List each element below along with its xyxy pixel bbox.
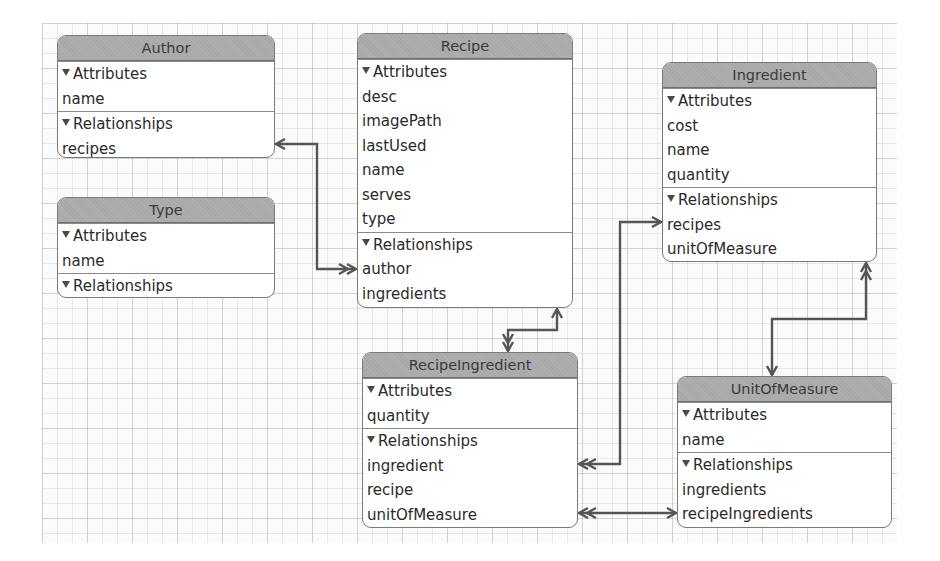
attributes-toggle[interactable]: Attributes bbox=[58, 62, 274, 87]
attributes-section: Attributes name bbox=[58, 61, 274, 111]
relationships-toggle[interactable]: Relationships bbox=[363, 429, 577, 454]
attribute-name[interactable]: name bbox=[358, 158, 572, 183]
relationships-toggle[interactable]: Relationships bbox=[358, 233, 572, 258]
disclosure-triangle-icon[interactable] bbox=[62, 281, 70, 288]
disclosure-triangle-icon[interactable] bbox=[62, 119, 70, 126]
entity-recipe[interactable]: Recipe Attributes desc imagePath lastUse… bbox=[357, 33, 573, 308]
attribute-desc[interactable]: desc bbox=[358, 85, 572, 110]
relationships-section: Relationships author ingredients bbox=[358, 232, 572, 307]
section-label: Relationships bbox=[693, 453, 793, 478]
disclosure-triangle-icon[interactable] bbox=[367, 436, 375, 443]
relationships-section: Relationships recipes unitOfMeasure bbox=[663, 187, 876, 262]
relationship-recipe[interactable]: recipe bbox=[363, 478, 577, 503]
attribute-type[interactable]: type bbox=[358, 207, 572, 232]
disclosure-triangle-icon[interactable] bbox=[667, 195, 675, 202]
disclosure-triangle-icon[interactable] bbox=[682, 460, 690, 467]
relationships-section: Relationships ingredients recipeIngredie… bbox=[678, 452, 891, 527]
attributes-section: Attributes name bbox=[58, 223, 274, 273]
relationship-unitofmeasure[interactable]: unitOfMeasure bbox=[363, 503, 577, 528]
attributes-toggle[interactable]: Attributes bbox=[678, 403, 891, 428]
relationship-author[interactable]: author bbox=[358, 257, 572, 282]
relationship-ingredient[interactable]: ingredient bbox=[363, 454, 577, 479]
disclosure-triangle-icon[interactable] bbox=[667, 96, 675, 103]
relationships-toggle[interactable]: Relationships bbox=[58, 274, 274, 298]
section-label: Attributes bbox=[678, 89, 752, 114]
relationships-section: Relationships ingredient recipe unitOfMe… bbox=[363, 428, 577, 527]
attribute-name[interactable]: name bbox=[58, 249, 274, 274]
section-label: Relationships bbox=[378, 429, 478, 454]
attribute-lastused[interactable]: lastUsed bbox=[358, 134, 572, 159]
relationships-section: Relationships recipes bbox=[58, 111, 274, 158]
attribute-name[interactable]: name bbox=[58, 87, 274, 112]
relationships-toggle[interactable]: Relationships bbox=[663, 188, 876, 213]
entity-recipeingredient[interactable]: RecipeIngredient Attributes quantity Rel… bbox=[362, 352, 578, 528]
entity-unitofmeasure[interactable]: UnitOfMeasure Attributes name Relationsh… bbox=[677, 376, 892, 528]
entity-type[interactable]: Type Attributes name Relationships bbox=[57, 197, 275, 298]
section-label: Attributes bbox=[378, 379, 452, 404]
relationship-recipes[interactable]: recipes bbox=[58, 137, 274, 159]
attributes-toggle[interactable]: Attributes bbox=[663, 89, 876, 114]
attributes-section: Attributes desc imagePath lastUsed name … bbox=[358, 59, 572, 232]
entity-title: Recipe bbox=[358, 34, 572, 59]
relationship-unitofmeasure[interactable]: unitOfMeasure bbox=[663, 237, 876, 262]
entity-title: UnitOfMeasure bbox=[678, 377, 891, 402]
disclosure-triangle-icon[interactable] bbox=[62, 231, 70, 238]
relationship-ingredients[interactable]: ingredients bbox=[678, 478, 891, 503]
entity-ingredient[interactable]: Ingredient Attributes cost name quantity… bbox=[662, 62, 877, 262]
disclosure-triangle-icon[interactable] bbox=[367, 386, 375, 393]
attribute-quantity[interactable]: quantity bbox=[663, 163, 876, 188]
section-label: Attributes bbox=[373, 60, 447, 85]
attributes-section: Attributes cost name quantity bbox=[663, 88, 876, 187]
relationships-section: Relationships bbox=[58, 273, 274, 298]
attribute-imagepath[interactable]: imagePath bbox=[358, 109, 572, 134]
section-label: Attributes bbox=[693, 403, 767, 428]
relationships-toggle[interactable]: Relationships bbox=[58, 112, 274, 137]
entity-author[interactable]: Author Attributes name Relationships rec… bbox=[57, 35, 275, 158]
entity-title: Author bbox=[58, 36, 274, 61]
attribute-name[interactable]: name bbox=[663, 138, 876, 163]
relationship-recipeingredients[interactable]: recipeIngredients bbox=[678, 502, 891, 527]
section-label: Relationships bbox=[373, 233, 473, 258]
relationship-recipes[interactable]: recipes bbox=[663, 213, 876, 238]
disclosure-triangle-icon[interactable] bbox=[682, 410, 690, 417]
entity-title: Type bbox=[58, 198, 274, 223]
disclosure-triangle-icon[interactable] bbox=[362, 239, 370, 246]
section-label: Attributes bbox=[73, 224, 147, 249]
section-label: Relationships bbox=[73, 112, 173, 137]
relationships-toggle[interactable]: Relationships bbox=[678, 453, 891, 478]
attribute-serves[interactable]: serves bbox=[358, 183, 572, 208]
relationship-ingredients[interactable]: ingredients bbox=[358, 282, 572, 307]
section-label: Attributes bbox=[73, 62, 147, 87]
section-label: Relationships bbox=[678, 188, 778, 213]
attribute-quantity[interactable]: quantity bbox=[363, 404, 577, 429]
attributes-toggle[interactable]: Attributes bbox=[58, 224, 274, 249]
attribute-cost[interactable]: cost bbox=[663, 114, 876, 139]
section-label: Relationships bbox=[73, 274, 173, 298]
attributes-toggle[interactable]: Attributes bbox=[363, 379, 577, 404]
attribute-name[interactable]: name bbox=[678, 428, 891, 453]
attributes-section: Attributes name bbox=[678, 402, 891, 452]
attributes-toggle[interactable]: Attributes bbox=[358, 60, 572, 85]
entity-title: RecipeIngredient bbox=[363, 353, 577, 378]
attributes-section: Attributes quantity bbox=[363, 378, 577, 428]
disclosure-triangle-icon[interactable] bbox=[62, 69, 70, 76]
entity-title: Ingredient bbox=[663, 63, 876, 88]
disclosure-triangle-icon[interactable] bbox=[362, 67, 370, 74]
